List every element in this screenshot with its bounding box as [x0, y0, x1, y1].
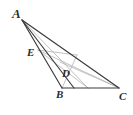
- vertex-label-e: E: [27, 47, 34, 58]
- side-AC-line: [22, 20, 119, 88]
- geometry-figure: A E D B C: [0, 0, 133, 115]
- vertex-label-c: C: [119, 91, 126, 102]
- vertex-label-b: B: [56, 89, 63, 100]
- vertex-label-d: D: [62, 68, 70, 79]
- vertex-label-a: A: [12, 7, 21, 20]
